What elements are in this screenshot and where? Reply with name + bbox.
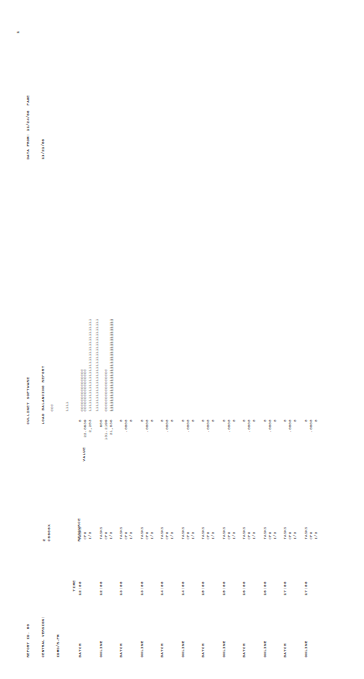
scanned-page: REPORT ID. 80 CENTRAL VERSION: IDMS/R-PM… <box>0 0 364 679</box>
resource-label: TASKS <box>263 526 268 539</box>
row-values: 655131.219921,836 <box>99 419 114 477</box>
page-title: CULLINET SOFTWARE <box>26 365 31 424</box>
legend-line-2: 1111 <box>65 318 70 411</box>
row-values: 0.00000 <box>263 419 278 477</box>
resource-label: I/O <box>150 526 155 539</box>
data-from-block: DATA FROM: 11/24/86 PAGE 11/21/86 <box>16 95 56 159</box>
row-category: BATCH <box>242 643 247 657</box>
row-category: ONLINE <box>263 640 268 657</box>
resource-label: I/O <box>129 526 134 539</box>
report-page: REPORT ID. 80 CENTRAL VERSION: IDMS/R-PM… <box>0 0 364 679</box>
legend-line-1: CCC <box>50 318 55 411</box>
resource-label: I/O <box>273 526 278 539</box>
row-time: 17:00 <box>304 581 309 595</box>
data-from-line-2: 11/21/86 <box>41 95 46 159</box>
row-resource-labels: TASKSCPUI/O <box>160 526 175 539</box>
row-category: ONLINE <box>140 640 145 657</box>
resource-label: I/O <box>252 526 257 539</box>
row-category: ONLINE <box>181 640 186 657</box>
resource-label: I/O <box>88 526 93 539</box>
row-category: BATCH <box>160 643 165 657</box>
resource-value: 0 <box>314 419 319 477</box>
row-values: 0.00000 <box>304 419 319 477</box>
row-time: 14:00 <box>181 581 186 595</box>
row-resource-labels: TASKSCPUI/O <box>78 526 93 539</box>
row-time: 15:00 <box>201 581 206 595</box>
row-resource-labels: TASKSCPUI/O <box>181 526 196 539</box>
resource-value: 0 <box>232 419 237 477</box>
resource-value: 0 <box>273 419 278 477</box>
resource-label: I/O <box>314 526 319 539</box>
row-time: 14:00 <box>160 581 165 595</box>
resource-label: I/O <box>293 526 298 539</box>
row-time: 16:00 <box>263 581 268 595</box>
resource-value: 0 <box>191 419 196 477</box>
resource-value: 0 <box>170 419 175 477</box>
data-from-line-1: DATA FROM: 11/24/86 PAGE <box>26 95 31 159</box>
row-time: 16:00 <box>242 581 247 595</box>
row-time: 17:00 <box>283 581 288 595</box>
row-resource-labels: TASKSCPUI/O <box>201 526 216 539</box>
resource-label: TASKS <box>304 526 309 539</box>
row-values: 0.00000 <box>140 419 155 477</box>
resource-value: 0 <box>150 419 155 477</box>
row-time: 13:00 <box>140 581 145 595</box>
row-resource-labels: TASKSCPUI/O <box>119 526 134 539</box>
row-values: 0.00000 <box>222 419 237 477</box>
resource-label: I/O <box>232 526 237 539</box>
page-number: 1 <box>16 30 21 33</box>
row-time: 12:00 <box>99 581 104 595</box>
resource-label: I/O <box>109 526 114 539</box>
resource-label: TASKS <box>181 526 186 539</box>
resource-label: TASKS <box>222 526 227 539</box>
histogram-bar: 1111111111111111111111111111111111111 <box>88 318 93 411</box>
report-id-line: REPORT ID. 80 <box>26 616 31 657</box>
resource-label: I/O <box>191 526 196 539</box>
row-category: BATCH <box>201 643 206 657</box>
resource-label: TASKS <box>140 526 145 539</box>
row-resource-labels: TASKSCPUI/O <box>99 526 114 539</box>
row-time: 15:00 <box>222 581 227 595</box>
row-values: 522.86392,253 <box>78 419 93 477</box>
row-category: BATCH <box>119 643 124 657</box>
resource-value: 0 <box>252 419 257 477</box>
row-category: ONLINE <box>304 640 309 657</box>
resource-value: 2,253 <box>88 419 93 477</box>
resource-label: TASKS <box>99 526 104 539</box>
row-resource-labels: TASKSCPUI/O <box>140 526 155 539</box>
row-resource-labels: TASKSCPUI/O <box>263 526 278 539</box>
row-values: 0.00000 <box>283 419 298 477</box>
row-histogram-bars: CCCCCCCCCCCCCCCCC11111111111111111111111… <box>99 318 114 411</box>
row-time: 13:00 <box>119 581 124 595</box>
row-values: 0.00000 <box>181 419 196 477</box>
resource-label: I/O <box>170 526 175 539</box>
row-category: ONLINE <box>99 640 104 657</box>
resource-value: 0 <box>211 419 216 477</box>
row-category: BATCH <box>283 643 288 657</box>
row-values: 0.00000 <box>242 419 257 477</box>
resource-value: 0 <box>129 419 134 477</box>
row-time: 12:00 <box>78 581 83 595</box>
row-values: 0.00000 <box>160 419 175 477</box>
resource-value: 0 <box>293 419 298 477</box>
central-version-line: CENTRAL VERSION: <box>41 616 46 657</box>
row-resource-labels: TASKSCPUI/O <box>304 526 319 539</box>
row-category: BATCH <box>78 643 83 657</box>
resource-value: 21,836 <box>109 419 114 477</box>
row-resource-labels: TASKSCPUI/O <box>242 526 257 539</box>
resource-label: I/O <box>211 526 216 539</box>
system-id-value: C8606X <box>47 523 52 541</box>
row-values: 0.00000 <box>201 419 216 477</box>
row-resource-labels: TASKSCPUI/O <box>222 526 237 539</box>
column-header-time: TIME <box>72 579 77 591</box>
row-category: ONLINE <box>222 640 227 657</box>
row-histogram-bars: CCCCCCCCCCCCCCCCC11111111111111111111111… <box>78 318 93 411</box>
row-values: 0.00000 <box>119 419 134 477</box>
row-resource-labels: TASKSCPUI/O <box>283 526 298 539</box>
histogram-bar: 1111111111111111111111111111111111111 <box>109 318 114 411</box>
